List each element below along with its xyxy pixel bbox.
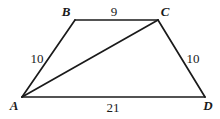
geometry-figure: A B C D 10 9 10 21: [0, 0, 220, 119]
side-label-bc: 9: [111, 5, 118, 18]
side-label-cd: 10: [187, 52, 200, 65]
side-label-ab: 10: [31, 52, 44, 65]
vertex-label-b: B: [62, 5, 71, 18]
vertex-label-d: D: [203, 99, 212, 112]
vertex-label-c: C: [161, 5, 170, 18]
vertex-label-a: A: [10, 99, 19, 112]
side-label-ad: 21: [107, 101, 120, 114]
